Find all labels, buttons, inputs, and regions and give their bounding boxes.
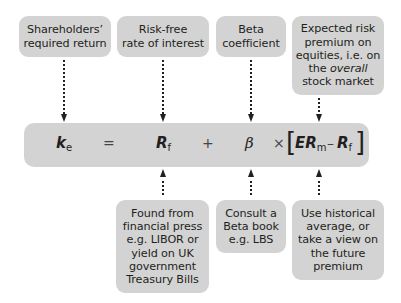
- box-label: Use historical average, or take a view o…: [298, 207, 378, 273]
- arrow-down-icon: [160, 114, 166, 122]
- box-found-from-financial-press: Found from financial press e.g. LIBOR or…: [116, 200, 209, 293]
- connector-dots: [318, 181, 320, 197]
- erm-symbol: ER: [295, 134, 317, 152]
- formula-rf2: Rf: [337, 134, 352, 153]
- box-label: Shareholders’ required return: [23, 23, 106, 50]
- erm-subscript: m: [317, 142, 327, 153]
- arrow-up-icon: [160, 169, 166, 177]
- ke-symbol: k: [56, 134, 66, 152]
- connector-dots: [162, 60, 164, 114]
- formula-beta: β: [245, 134, 254, 152]
- rf-subscript: f: [168, 142, 172, 153]
- connector-dots: [250, 60, 252, 114]
- formula-times: ×: [273, 135, 285, 151]
- box-label: Found from financial press e.g. LIBOR or…: [123, 207, 202, 287]
- formula-rf: Rf: [156, 134, 171, 153]
- arrow-down-icon: [248, 114, 254, 122]
- formula-bracket-close: ]: [355, 127, 365, 157]
- box-label-italic: overall: [330, 62, 367, 75]
- formula-erm: ERm: [295, 134, 327, 153]
- ke-subscript: e: [66, 142, 72, 153]
- box-label: Beta coefficient: [222, 23, 279, 50]
- formula-ke: ke: [56, 134, 72, 153]
- rf-symbol: R: [156, 134, 168, 152]
- box-shareholders-required-return: Shareholders’ required return: [19, 16, 111, 57]
- connector-dots: [63, 60, 65, 114]
- arrow-down-icon: [61, 114, 67, 122]
- arrow-up-icon: [316, 169, 322, 177]
- formula-equals: =: [103, 135, 115, 151]
- formula-minus: –: [327, 135, 334, 151]
- box-expected-risk-premium: Expected risk premium on equities, i.e. …: [292, 16, 384, 95]
- rf-symbol: R: [337, 134, 349, 152]
- box-consult-beta-book: Consult a Beta book e.g. LBS: [216, 200, 286, 253]
- formula-plus: +: [202, 135, 214, 151]
- box-label: Consult a Beta book e.g. LBS: [223, 207, 279, 247]
- box-label: Expected risk premium on equities, i.e. …: [296, 22, 380, 88]
- arrow-down-icon: [316, 114, 322, 122]
- rf-subscript: f: [349, 142, 353, 153]
- box-risk-free-rate: Risk-free rate of interest: [117, 16, 209, 57]
- box-label-part: stock market: [302, 75, 374, 88]
- arrow-up-icon: [248, 169, 254, 177]
- connector-dots: [162, 181, 164, 197]
- box-use-historical-average: Use historical average, or take a view o…: [292, 200, 384, 280]
- connector-dots: [318, 98, 320, 114]
- connector-dots: [250, 181, 252, 197]
- box-beta-coefficient: Beta coefficient: [216, 16, 286, 57]
- box-label: Risk-free rate of interest: [122, 23, 204, 50]
